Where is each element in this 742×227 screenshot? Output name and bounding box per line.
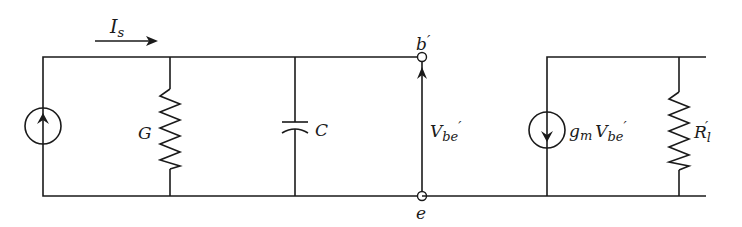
independent-current-source	[25, 108, 61, 144]
top-wire-left	[43, 57, 422, 108]
input-network-wires	[43, 57, 422, 196]
label-node-e: e	[416, 203, 426, 223]
dependent-current-source: gmVbe′	[529, 112, 628, 148]
label-G: G	[138, 123, 152, 143]
resistor-Rl-prime: Rl′	[669, 57, 711, 196]
circuit-diagram: Is G C b′ e Vbe′	[0, 0, 742, 227]
label-gm-Vbe-prime: gmVbe′	[569, 119, 628, 144]
bottom-wire-left	[43, 144, 422, 196]
port-voltage-Vbe: b′ e Vbe′	[416, 32, 462, 223]
label-Vbe-prime: Vbe′	[430, 119, 462, 144]
capacitor-C: C	[282, 57, 328, 196]
resistor-zigzag-icon	[160, 89, 180, 169]
source-current-annotation: Is	[95, 15, 158, 46]
label-C: C	[315, 120, 328, 140]
label-node-b-prime: b′	[416, 32, 431, 54]
resistor-G: G	[138, 57, 180, 196]
resistor-zigzag-icon	[669, 92, 689, 170]
label-Rl-prime: Rl′	[693, 119, 711, 145]
label-Is: Is	[109, 15, 125, 40]
